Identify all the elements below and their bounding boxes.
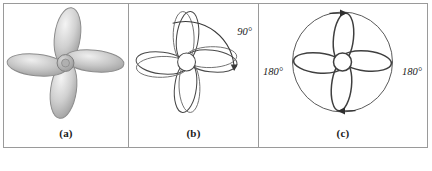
panel-a: (a)	[4, 4, 129, 147]
outline-rotor-circle-diagram	[259, 4, 427, 122]
rotor-hub-inner	[62, 59, 70, 67]
panel-a-caption: (a)	[4, 127, 128, 139]
panel-c-artwork	[259, 4, 427, 122]
figure-frame: (a)	[3, 3, 428, 148]
panel-c: 180° 180° (c)	[259, 4, 427, 147]
rotor-hub	[334, 53, 352, 71]
panel-b-artwork	[129, 4, 258, 122]
panel-b: 90° (b)	[129, 4, 259, 147]
panel-a-artwork	[4, 4, 128, 122]
outline-rotor-rotation-diagram	[129, 4, 258, 122]
shaded-rotor-diagram	[4, 4, 128, 122]
panel-b-caption: (b)	[129, 127, 258, 139]
rotation-angle-label-90: 90°	[237, 26, 252, 37]
rotation-angle-label-180-right: 180°	[402, 66, 422, 77]
panel-c-caption: (c)	[259, 127, 427, 139]
rotation-angle-label-180-left: 180°	[263, 66, 283, 77]
rotor-hub	[178, 53, 196, 71]
